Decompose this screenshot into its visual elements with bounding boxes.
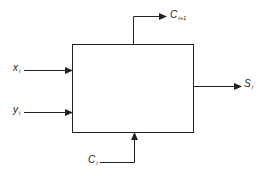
label-x-subscript: i — [19, 68, 20, 74]
label-y-input: yi — [13, 105, 20, 116]
label-carry-out-symbol: C — [170, 9, 177, 20]
label-sum-subscript: i — [252, 84, 253, 90]
output-arrow-carry-out — [134, 17, 167, 45]
label-carry-in: Ci — [88, 155, 98, 166]
label-x-input: xi — [13, 63, 20, 74]
label-y-subscript: i — [19, 110, 20, 116]
label-x-symbol: x — [13, 62, 18, 73]
processing-block — [73, 45, 194, 133]
label-carry-in-subscript: i — [96, 160, 97, 166]
label-sum-symbol: S — [244, 78, 251, 89]
label-carry-in-symbol: C — [88, 154, 95, 165]
full-adder-block-diagram — [0, 0, 264, 176]
label-carry-out-subscript: i+1 — [178, 15, 186, 21]
label-carry-out: Ci+1 — [170, 10, 186, 21]
label-sum-output: Si — [244, 79, 253, 90]
label-y-symbol: y — [13, 104, 18, 115]
input-arrow-carry-in — [100, 133, 135, 163]
